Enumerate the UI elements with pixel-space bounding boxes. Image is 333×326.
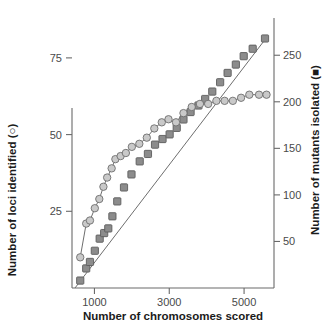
loci-marker [143,134,150,141]
left-axis-ticks: 255075 [50,52,72,217]
mutants-marker [217,79,224,86]
right-tick-label: 200 [283,96,301,108]
mutants-marker [261,35,268,42]
x-tick-label: 1000 [82,296,106,308]
right-tick-label: 50 [283,235,295,247]
mutants-regression-line [75,37,267,288]
mutants-marker [224,69,231,76]
chart-svg: 255075 50100150200250 100030005000 Numbe… [0,0,333,326]
mutants-marker [128,171,135,178]
mutants-marker [151,141,158,148]
loci-marker [122,149,129,156]
loci-marker [213,97,220,104]
mutants-fit-line [75,37,267,288]
mutants-marker [209,88,216,95]
mutants-marker [77,277,84,284]
x-axis-title: Number of chromosomes scored [83,310,263,322]
mutants-marker [91,247,98,254]
right-tick-label: 100 [283,189,301,201]
loci-marker [151,125,158,132]
x-tick-label: 5000 [232,296,256,308]
loci-marker [100,183,107,190]
loci-marker [86,217,93,224]
mutants-marker [120,184,127,191]
mutants-marker [136,158,143,165]
right-tick-label: 150 [283,142,301,154]
loci-marker [108,165,115,172]
mutants-marker [249,45,256,52]
loci-marker [188,103,195,110]
mutants-marker [105,225,112,232]
x-tick-label: 3000 [157,296,181,308]
loci-marker [180,109,187,116]
mutants-marker [144,150,151,157]
loci-marker [229,97,236,104]
loci-marker [96,195,103,202]
loci-marker [172,119,179,126]
mutants-marker [232,61,239,68]
left-tick-label: 25 [50,205,62,217]
left-tick-label: 75 [50,52,62,64]
loci-marker [221,97,228,104]
loci-marker [103,174,110,181]
loci-marker [91,205,98,212]
loci-marker [128,143,135,150]
loci-marker [165,116,172,123]
right-axis-ticks: 50100150200250 [274,49,301,247]
loci-marker [77,254,84,261]
loci-marker [204,100,211,107]
right-axis-title: Number of mutants isolated (■) [309,65,321,235]
bottom-axis-ticks: 100030005000 [82,288,256,308]
loci-marker [158,119,165,126]
mutants-marker [86,258,93,265]
mutants-marker [114,198,121,205]
loci-marker [237,94,244,101]
loci-marker [263,91,270,98]
chart-figure: 255075 50100150200250 100030005000 Numbe… [0,0,333,326]
left-axis-title: Number of loci identified (○) [6,124,18,277]
left-tick-label: 50 [50,129,62,141]
loci-marker [246,91,253,98]
right-tick-label: 250 [283,49,301,61]
loci-marker [136,140,143,147]
mutants-marker [159,135,166,142]
loci-marker [255,91,262,98]
loci-marker [196,100,203,107]
mutants-marker [109,213,116,220]
mutants-marker [166,131,173,138]
mutants-marker [240,53,247,60]
